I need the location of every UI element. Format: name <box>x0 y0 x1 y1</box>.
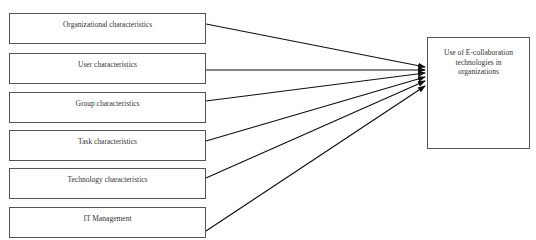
source-box-user-characteristics: User characteristics <box>9 53 206 84</box>
source-label: Technology characteristics <box>10 175 205 184</box>
target-box-e-collaboration-use: Use of E-collaboration technologies in o… <box>427 37 530 149</box>
arrow-5 <box>206 86 425 231</box>
arrow-4 <box>206 81 425 178</box>
source-label: Task characteristics <box>10 137 205 146</box>
source-label: Organizational characteristics <box>10 20 205 29</box>
source-label: IT Management <box>10 214 205 223</box>
arrow-0 <box>206 24 425 67</box>
source-box-technology-characteristics: Technology characteristics <box>9 168 206 199</box>
source-label: Group characteristics <box>10 99 205 108</box>
source-box-organizational-characteristics: Organizational characteristics <box>9 13 206 44</box>
source-box-task-characteristics: Task characteristics <box>9 130 206 161</box>
source-box-group-characteristics: Group characteristics <box>9 92 206 123</box>
source-label: User characteristics <box>10 60 205 69</box>
source-box-it-management: IT Management <box>9 207 206 238</box>
target-label: Use of E-collaboration technologies in o… <box>428 48 529 77</box>
